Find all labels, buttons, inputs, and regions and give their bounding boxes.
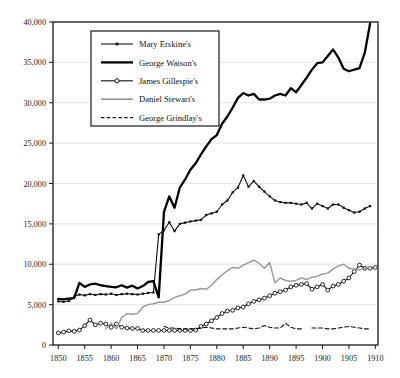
data-point-marker [179, 223, 181, 225]
data-point-marker [57, 300, 59, 302]
legend-label: James Gillespie's [139, 76, 199, 86]
data-point-marker [316, 203, 318, 205]
data-point-marker [216, 211, 218, 213]
data-point-marker [369, 205, 371, 207]
x-axis-tick-label: 1895 [288, 354, 304, 363]
data-point-marker [273, 291, 277, 295]
data-point-marker [89, 293, 91, 295]
data-point-marker [358, 211, 360, 213]
data-point-marker [131, 293, 133, 295]
data-point-marker [94, 294, 96, 296]
data-point-marker [237, 186, 239, 188]
data-point-marker [204, 322, 208, 326]
data-point-marker [311, 207, 313, 209]
data-point-marker [56, 331, 60, 335]
legend-label: George Grindlay's [139, 113, 202, 123]
data-point-marker [253, 180, 255, 182]
data-point-marker [331, 284, 335, 288]
data-point-marker [173, 329, 177, 333]
x-axis-tick-label: 1885 [235, 354, 251, 363]
data-point-marker [284, 288, 288, 292]
y-axis-tick-label: 25,000 [23, 139, 46, 148]
data-point-marker [337, 203, 339, 205]
data-point-marker [278, 290, 282, 294]
data-point-marker [336, 283, 340, 287]
data-point-marker [300, 203, 302, 205]
data-point-marker [167, 329, 171, 333]
data-point-marker [168, 221, 170, 223]
y-axis-tick-label: 20,000 [23, 180, 46, 189]
data-point-marker [93, 323, 97, 327]
data-point-marker [184, 222, 186, 224]
data-point-marker [252, 299, 256, 303]
data-point-marker [158, 233, 160, 235]
legend-label: Daniel Stewart's [139, 94, 196, 104]
data-point-marker [315, 285, 319, 289]
data-point-marker [84, 294, 86, 296]
data-point-marker [358, 263, 362, 267]
data-point-marker [104, 322, 108, 326]
data-point-marker [236, 306, 240, 310]
data-point-marker [353, 211, 355, 213]
data-point-marker [210, 319, 214, 323]
data-point-marker [310, 287, 314, 291]
y-axis-tick-label: 40,000 [23, 18, 46, 27]
data-point-marker [125, 326, 129, 330]
data-point-marker [290, 202, 292, 204]
data-point-marker [78, 328, 82, 332]
data-point-marker [232, 191, 234, 193]
data-point-marker [205, 214, 207, 216]
data-point-marker [210, 212, 212, 214]
data-point-marker [241, 305, 245, 309]
data-point-marker [110, 293, 112, 295]
data-point-marker [268, 294, 272, 298]
y-axis-tick-label: 0 [42, 341, 46, 350]
data-point-marker [327, 207, 329, 209]
x-axis-tick-label: 1910 [367, 354, 383, 363]
x-axis-tick-label: 1850 [50, 354, 66, 363]
data-point-marker [274, 199, 276, 201]
data-point-marker [195, 220, 197, 222]
y-axis-tick-label: 10,000 [23, 260, 46, 269]
data-point-marker [279, 201, 281, 203]
x-axis-tick-label: 1855 [77, 354, 93, 363]
data-point-marker [226, 199, 228, 201]
data-point-marker [231, 308, 235, 312]
data-point-marker [62, 301, 64, 303]
data-point-marker [147, 292, 149, 294]
data-point-marker [289, 285, 293, 289]
data-point-marker [146, 329, 150, 333]
data-point-marker [321, 205, 323, 207]
data-point-marker [126, 293, 128, 295]
data-point-marker [257, 298, 261, 302]
data-point-marker [215, 316, 219, 320]
y-axis-tick-label: 5,000 [28, 301, 46, 310]
chart-legend: Mary Erskine'sGeorge Watson'sJames Gille… [91, 31, 219, 126]
data-point-marker [68, 300, 70, 302]
data-point-marker [121, 293, 123, 295]
data-point-marker [347, 276, 351, 280]
legend-label: George Watson's [139, 58, 197, 68]
data-point-marker [157, 329, 161, 333]
data-point-marker [120, 325, 124, 329]
data-point-marker [352, 270, 356, 274]
data-point-marker [326, 288, 330, 292]
data-point-marker [263, 190, 265, 192]
data-point-marker [62, 330, 66, 334]
y-axis-tick-label: 35,000 [23, 58, 46, 67]
x-axis-tick-label: 1860 [103, 354, 119, 363]
data-point-marker [99, 321, 103, 325]
data-point-marker [348, 209, 350, 211]
x-axis-tick-label: 1870 [156, 354, 172, 363]
data-point-marker [343, 207, 345, 209]
data-point-marker [115, 294, 117, 296]
data-point-marker [247, 302, 251, 306]
data-point-marker [321, 283, 325, 287]
data-point-marker [242, 174, 244, 176]
data-point-marker [142, 293, 144, 295]
x-axis-tick-label: 1900 [314, 354, 330, 363]
data-point-marker [152, 291, 154, 293]
legend-marker-sample [116, 43, 119, 46]
data-point-marker [173, 230, 175, 232]
data-point-marker [299, 283, 303, 287]
